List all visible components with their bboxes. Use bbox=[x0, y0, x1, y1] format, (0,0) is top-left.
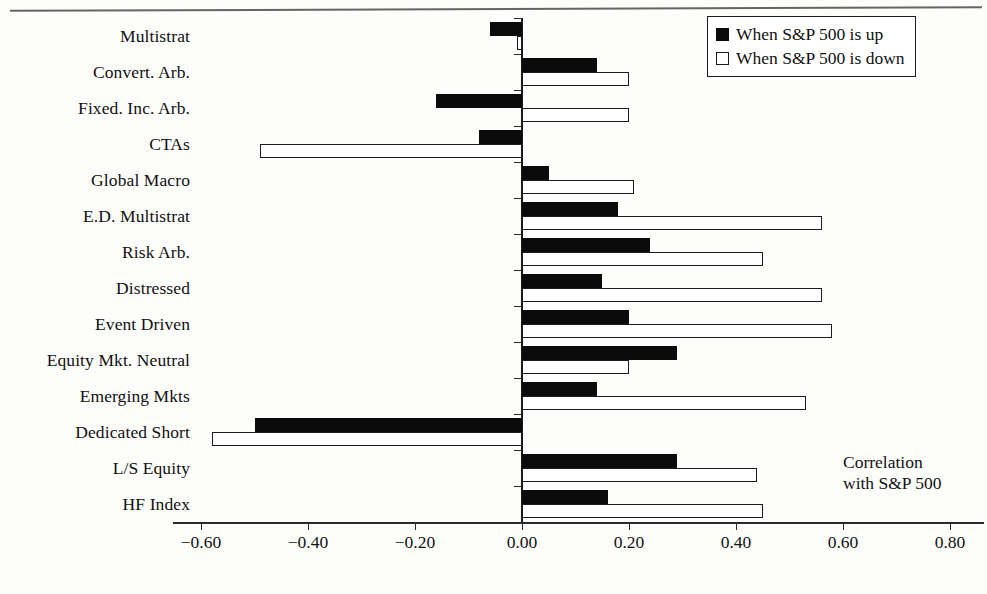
bar-sp500-up bbox=[479, 130, 522, 144]
category-tick bbox=[514, 450, 522, 451]
category-tick bbox=[514, 18, 522, 19]
category-tick bbox=[514, 90, 522, 91]
x-tick-label: −0.60 bbox=[181, 532, 222, 553]
bar-sp500-up bbox=[522, 238, 650, 252]
category-tick bbox=[514, 306, 522, 307]
x-tick bbox=[950, 522, 951, 530]
bar-sp500-up bbox=[522, 454, 677, 468]
legend-swatch-filled-icon bbox=[716, 28, 729, 41]
bar-sp500-down bbox=[522, 216, 822, 230]
bar-sp500-down bbox=[522, 288, 822, 302]
bar-sp500-up bbox=[490, 22, 522, 36]
bar-sp500-up bbox=[522, 202, 618, 216]
category-tick bbox=[514, 378, 522, 379]
category-tick bbox=[514, 162, 522, 163]
x-tick-label: −0.20 bbox=[395, 532, 436, 553]
x-tick bbox=[415, 522, 416, 530]
x-tick-label: −0.40 bbox=[288, 532, 329, 553]
bar-sp500-up bbox=[522, 166, 549, 180]
chart-page: MultistratConvert. Arb.Fixed. Inc. Arb.C… bbox=[0, 0, 987, 594]
annotation-line-1: Correlation bbox=[843, 452, 942, 473]
category-tick bbox=[514, 486, 522, 487]
category-tick bbox=[514, 270, 522, 271]
bar-sp500-down bbox=[522, 504, 763, 518]
x-axis-line bbox=[173, 522, 984, 524]
bar-sp500-down bbox=[260, 144, 522, 158]
category-tick bbox=[514, 414, 522, 415]
bar-sp500-up bbox=[436, 94, 522, 108]
x-tick-label: 0.60 bbox=[828, 532, 859, 553]
bar-sp500-down bbox=[522, 108, 629, 122]
legend-item-up: When S&P 500 is up bbox=[716, 22, 905, 46]
bar-chart-plot-area: MultistratConvert. Arb.Fixed. Inc. Arb.C… bbox=[0, 18, 987, 528]
x-tick bbox=[843, 522, 844, 530]
category-tick bbox=[514, 126, 522, 127]
chart-legend: When S&P 500 is up When S&P 500 is down bbox=[707, 16, 916, 77]
legend-label-down: When S&P 500 is down bbox=[736, 49, 905, 67]
bar-sp500-up bbox=[522, 274, 602, 288]
bar-sp500-up bbox=[522, 490, 608, 504]
category-tick bbox=[514, 234, 522, 235]
bar-sp500-up bbox=[522, 382, 597, 396]
legend-item-down: When S&P 500 is down bbox=[716, 46, 905, 70]
bar-sp500-down bbox=[522, 360, 629, 374]
bar-sp500-down bbox=[522, 324, 832, 338]
bar-sp500-down bbox=[522, 180, 634, 194]
bar-sp500-up bbox=[522, 310, 629, 324]
x-tick-label: 0.00 bbox=[507, 532, 538, 553]
bar-sp500-down bbox=[522, 252, 763, 266]
bar-sp500-down bbox=[522, 72, 629, 86]
bar-sp500-down bbox=[212, 432, 522, 446]
x-tick bbox=[308, 522, 309, 530]
bar-sp500-down bbox=[522, 396, 806, 410]
x-tick-label: 0.80 bbox=[935, 532, 966, 553]
bar-sp500-up bbox=[255, 418, 523, 432]
category-tick bbox=[514, 54, 522, 55]
bar-sp500-down bbox=[517, 36, 522, 50]
category-tick bbox=[514, 198, 522, 199]
category-tick bbox=[514, 342, 522, 343]
bar-sp500-up bbox=[522, 346, 677, 360]
bar-sp500-down bbox=[522, 468, 757, 482]
legend-swatch-open-icon bbox=[716, 52, 729, 65]
chart-annotation: Correlation with S&P 500 bbox=[843, 452, 942, 494]
annotation-line-2: with S&P 500 bbox=[843, 473, 942, 494]
x-tick bbox=[522, 522, 523, 530]
x-tick-label: 0.40 bbox=[721, 532, 752, 553]
bars-layer bbox=[0, 18, 987, 528]
x-tick bbox=[201, 522, 202, 530]
x-tick bbox=[629, 522, 630, 530]
bar-sp500-up bbox=[522, 58, 597, 72]
legend-label-up: When S&P 500 is up bbox=[736, 25, 883, 43]
page-top-rule bbox=[10, 6, 982, 12]
x-tick bbox=[736, 522, 737, 530]
x-tick-label: 0.20 bbox=[614, 532, 645, 553]
